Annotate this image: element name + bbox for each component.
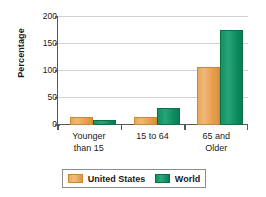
x-label-line1-1: 15 to 64 [121, 131, 185, 143]
x-tick-mark-1 [121, 125, 123, 130]
bar-chart: Percentage 050100150200 Youngerthan 1515… [0, 0, 266, 197]
x-tick-mark-2 [184, 125, 186, 130]
plot-area [57, 17, 248, 125]
x-label-line1-2: 65 and [184, 131, 248, 143]
bar-group-2 [197, 17, 243, 125]
y-tick-label-50: 50 [31, 93, 57, 102]
x-axis-label-2: 65 andOlder [184, 131, 248, 154]
x-label-line2-0: than 15 [57, 143, 121, 155]
x-tick-mark-0 [57, 125, 59, 130]
legend-label-1: World [175, 174, 200, 184]
chart-legend: United StatesWorld [62, 169, 206, 188]
x-label-line1-0: Younger [57, 131, 121, 143]
legend-swatch-united-states-icon [68, 174, 83, 183]
legend-item-united-states: United States [68, 174, 146, 184]
bar-world-2 [220, 30, 243, 125]
y-tick-label-200: 200 [31, 12, 57, 21]
x-axis-labels: Youngerthan 1515 to 6465 andOlder [50, 131, 260, 161]
bar-world-1 [157, 108, 180, 125]
y-tick-label-100: 100 [31, 66, 57, 75]
legend-item-world: World [155, 174, 200, 184]
bar-united-states-2 [197, 67, 220, 125]
legend-swatch-world-icon [155, 174, 170, 183]
bar-group-1 [134, 17, 180, 125]
legend-label-0: United States [88, 174, 146, 184]
bar-united-states-0 [70, 117, 93, 125]
x-tick-mark-3 [247, 125, 249, 130]
y-tick-label-0: 0 [31, 120, 57, 129]
x-label-line2-2: Older [184, 143, 248, 155]
y-axis-ticks: 050100150200 [25, 0, 57, 197]
bar-united-states-1 [134, 117, 157, 125]
x-axis-label-0: Youngerthan 15 [57, 131, 121, 154]
x-axis-label-1: 15 to 64 [121, 131, 185, 143]
y-tick-label-150: 150 [31, 39, 57, 48]
bar-group-0 [70, 17, 116, 125]
